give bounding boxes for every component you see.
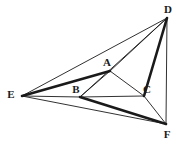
vertex-label-a: A — [103, 56, 111, 68]
vertex-label-f: F — [164, 128, 171, 140]
segment-eb — [22, 96, 80, 97]
segment-df — [166, 18, 167, 124]
segment-ac — [110, 71, 144, 96]
vertex-label-c: C — [143, 83, 151, 95]
vertex-label-e: E — [7, 88, 14, 100]
vertex-label-b: B — [72, 83, 80, 95]
segment-bc — [80, 96, 144, 97]
vertex-label-d: D — [164, 3, 172, 15]
geometry-figure: ABCDEF — [0, 0, 183, 145]
segment-bf — [80, 97, 166, 124]
segment-ea — [22, 71, 110, 96]
segments-layer — [22, 18, 167, 124]
figure-canvas: ABCDEF — [0, 0, 183, 145]
